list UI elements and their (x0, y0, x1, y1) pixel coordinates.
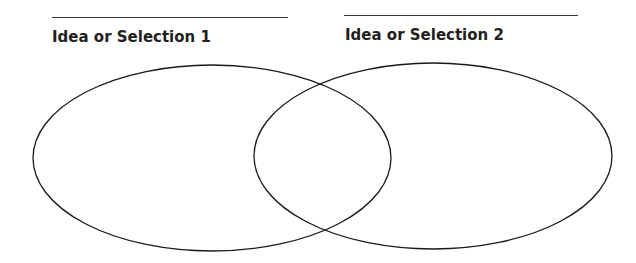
venn-diagram (0, 0, 636, 263)
venn-circle-set-2[interactable] (254, 63, 612, 249)
venn-circle-set-1[interactable] (33, 65, 391, 251)
